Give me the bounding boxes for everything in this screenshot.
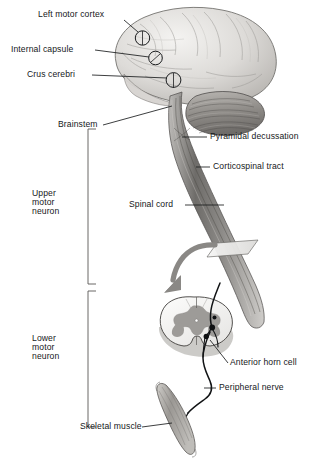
bracket-label-lower-motor-neuron: Lower motor neuron bbox=[32, 334, 59, 361]
label-crus-cerebri: Crus cerebri bbox=[27, 70, 75, 79]
label-left-motor-cortex: Left motor cortex bbox=[38, 10, 104, 19]
label-anterior-horn-cell: Anterior horn cell bbox=[230, 358, 297, 367]
label-pyramidal-decussation: Pyramidal decussation bbox=[210, 132, 299, 141]
label-spinal-cord: Spinal cord bbox=[129, 200, 173, 209]
transition-arrow bbox=[164, 245, 215, 293]
anatomy-diagram-corticospinal-pathway: Left motor cortex Internal capsule Crus … bbox=[0, 0, 331, 461]
bracket-upper-line3: neuron bbox=[32, 207, 59, 216]
label-corticospinal-tract: Corticospinal tract bbox=[213, 162, 284, 171]
label-skeletal-muscle: Skeletal muscle bbox=[80, 422, 142, 431]
label-brainstem: Brainstem bbox=[58, 120, 98, 129]
cerebellum bbox=[186, 92, 265, 136]
lower-motor-neuron-bracket bbox=[88, 291, 96, 427]
bracket-label-upper-motor-neuron: Upper motor neuron bbox=[32, 189, 59, 216]
spinal-cord-cross-section bbox=[159, 297, 233, 357]
label-internal-capsule: Internal capsule bbox=[11, 45, 73, 54]
skeletal-muscle bbox=[156, 382, 196, 457]
cerebrum bbox=[115, 7, 276, 106]
bracket-lower-line3: neuron bbox=[32, 352, 59, 361]
upper-motor-neuron-bracket bbox=[88, 129, 96, 284]
label-peripheral-nerve: Peripheral nerve bbox=[219, 383, 284, 392]
